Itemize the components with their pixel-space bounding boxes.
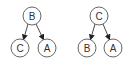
edge-c-a: [103, 24, 110, 40]
tree-2: C B A: [78, 7, 122, 57]
svg-text:C: C: [16, 43, 23, 54]
edge-c-b: [91, 24, 96, 40]
tree-diagram: B C A C B A: [0, 0, 134, 63]
svg-text:B: B: [29, 11, 36, 22]
tree-1: B C A: [11, 7, 56, 57]
node-right-child: A: [104, 39, 122, 57]
node-right-child: A: [38, 39, 56, 57]
edge-b-c: [24, 24, 29, 40]
svg-text:A: A: [44, 43, 51, 54]
edge-b-a: [36, 24, 44, 40]
svg-text:C: C: [95, 11, 102, 22]
node-root: B: [23, 7, 41, 25]
node-root: C: [90, 7, 108, 25]
node-left-child: B: [78, 39, 96, 57]
svg-text:B: B: [84, 43, 91, 54]
node-left-child: C: [11, 39, 29, 57]
svg-text:A: A: [110, 43, 117, 54]
